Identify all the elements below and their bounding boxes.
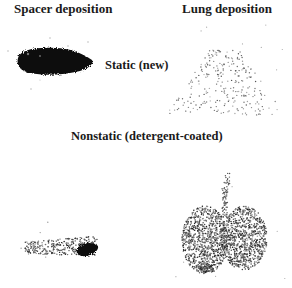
scintigraphy-panels	[0, 0, 292, 288]
static-lung-deposit	[169, 25, 283, 116]
nonstatic-lung-deposit	[175, 173, 285, 279]
static-spacer-deposit	[18, 48, 93, 75]
